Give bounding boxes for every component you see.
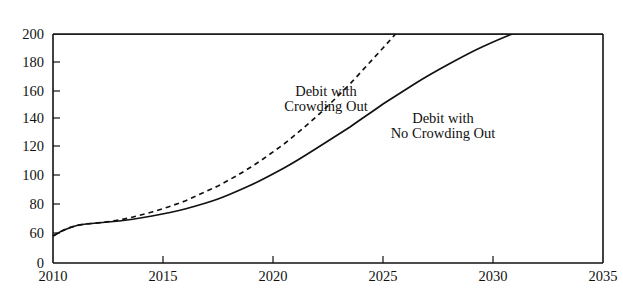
- ytick-label-140: 140: [4, 111, 44, 126]
- ytick-label-80: 80: [4, 197, 44, 212]
- xtick-label-2015: 2015: [128, 269, 198, 284]
- x-axis-ticks: [163, 256, 493, 263]
- series-line-crowding-out: [53, 10, 416, 236]
- xtick-label-2010: 2010: [18, 269, 88, 284]
- xtick-label-2030: 2030: [458, 269, 528, 284]
- ytick-label-180: 180: [4, 55, 44, 70]
- xtick-label-2020: 2020: [238, 269, 308, 284]
- axis-frame: [53, 34, 603, 263]
- top-clip-mask: [0, 0, 623, 34]
- ytick-label-60: 60: [4, 226, 44, 241]
- xtick-label-2025: 2025: [348, 269, 418, 284]
- ytick-label-120: 120: [4, 139, 44, 154]
- ytick-label-160: 160: [4, 84, 44, 99]
- chart-figure: (percentage of gross domestic product): [0, 0, 623, 297]
- ytick-label-200: 200: [4, 27, 44, 42]
- y-axis-ticks: [53, 62, 60, 233]
- xtick-label-2035: 2035: [568, 269, 623, 284]
- ytick-label-100: 100: [4, 168, 44, 183]
- plot-area: [0, 0, 623, 297]
- annotation-no-crowding-out: Debit with No Crowding Out: [373, 111, 513, 142]
